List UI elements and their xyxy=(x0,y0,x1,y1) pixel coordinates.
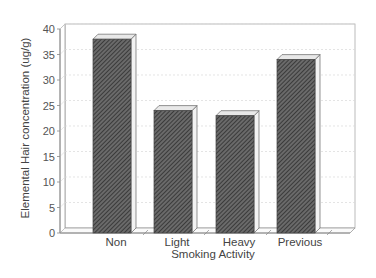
bar-front xyxy=(154,111,192,233)
category-labels: NonLightHeavyPrevious xyxy=(105,236,322,248)
category-label: Non xyxy=(105,236,126,248)
y-tick-label: 30 xyxy=(43,74,55,86)
bar-non xyxy=(93,34,136,233)
y-tick-label: 0 xyxy=(49,227,55,239)
y-axis: 0510152025303540 xyxy=(43,23,60,239)
y-tick-label: 15 xyxy=(43,151,55,163)
bar-top xyxy=(154,106,197,111)
bar-side xyxy=(131,34,136,233)
bar-light xyxy=(154,106,197,233)
category-label: Heavy xyxy=(223,236,256,248)
y-tick-label: 20 xyxy=(43,125,55,137)
bar-side xyxy=(192,106,197,233)
bar-top xyxy=(93,34,136,39)
bar-chart: 0510152025303540 NonLightHeavyPrevious S… xyxy=(0,0,376,278)
y-tick-label: 40 xyxy=(43,23,55,35)
bar-front xyxy=(277,60,315,233)
bar-side xyxy=(315,55,320,233)
y-tick-label: 25 xyxy=(43,100,55,112)
y-tick-label: 10 xyxy=(43,176,55,188)
bar-top xyxy=(277,55,320,60)
bar-previous xyxy=(277,55,320,233)
bar-front xyxy=(93,39,131,233)
bars xyxy=(93,34,320,233)
bar-side xyxy=(254,111,259,233)
y-axis-title: Elemental Hair concentration (ug/g) xyxy=(19,37,31,218)
category-label: Previous xyxy=(278,236,323,248)
bar-heavy xyxy=(216,111,259,233)
bar-top xyxy=(216,111,259,116)
y-tick-label: 35 xyxy=(43,49,55,61)
x-axis-title: Smoking Activity xyxy=(171,248,255,260)
category-label: Light xyxy=(165,236,191,248)
y-tick-label: 5 xyxy=(49,202,55,214)
bar-front xyxy=(216,116,254,233)
